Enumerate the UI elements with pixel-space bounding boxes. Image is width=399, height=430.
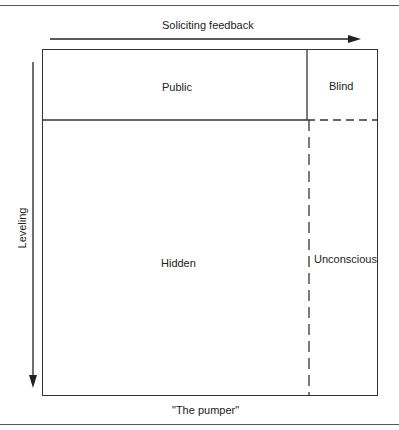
quadrant-hidden: Hidden <box>161 257 196 269</box>
caption: "The pumper" <box>172 404 239 416</box>
quadrant-dividers <box>0 0 399 430</box>
quadrant-public: Public <box>162 81 192 93</box>
quadrant-blind: Blind <box>329 80 353 92</box>
quadrant-unconscious: Unconscious <box>314 253 377 265</box>
